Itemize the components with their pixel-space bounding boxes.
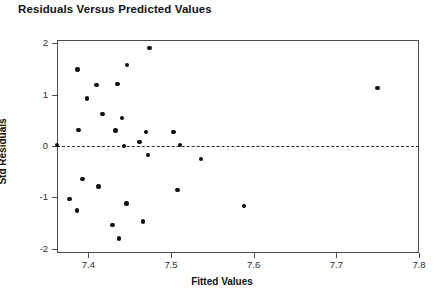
data-point: [137, 140, 141, 144]
data-point: [171, 130, 175, 134]
data-point: [144, 130, 148, 134]
x-axis-tick-label: 7.8: [412, 260, 425, 270]
data-point: [67, 197, 71, 201]
data-point: [141, 219, 145, 223]
data-point: [125, 63, 129, 67]
data-point: [110, 223, 114, 227]
data-point: [117, 236, 121, 240]
data-point: [100, 112, 104, 116]
x-axis-tick-label: 7.6: [247, 260, 260, 270]
y-axis-tick-label: 2: [43, 38, 48, 48]
data-point: [147, 46, 151, 50]
x-axis-tick-label: 7.4: [82, 260, 95, 270]
data-point: [146, 153, 150, 157]
x-axis-tick-label: 7.7: [330, 260, 343, 270]
y-axis-tick-label: -1: [40, 192, 48, 202]
data-point: [75, 67, 79, 71]
x-axis-label: Fitted Values: [0, 276, 444, 287]
y-axis-tick-label: -2: [40, 244, 48, 254]
x-axis-tick: [336, 253, 337, 258]
data-point: [75, 208, 79, 212]
data-point: [122, 144, 126, 148]
plot-area: [57, 40, 419, 253]
y-axis-tick-label: 0: [43, 141, 48, 151]
y-axis-tick-label: 1: [43, 90, 48, 100]
data-point: [375, 86, 379, 90]
y-axis-label: Std Residuals: [0, 118, 8, 184]
x-axis-tick: [88, 253, 89, 258]
data-point: [120, 116, 124, 120]
data-point: [115, 82, 119, 86]
x-axis-tick: [171, 253, 172, 258]
data-point: [94, 83, 98, 87]
data-point: [242, 204, 246, 208]
data-point: [124, 201, 128, 205]
data-point: [80, 177, 84, 181]
data-point: [96, 184, 100, 188]
data-point: [199, 157, 203, 161]
zero-residual-line: [57, 146, 419, 147]
data-point: [85, 96, 89, 100]
data-point: [175, 188, 179, 192]
residual-plot-figure: Residuals Versus Predicted Values Std Re…: [0, 0, 444, 296]
x-axis-tick: [254, 253, 255, 258]
x-axis-tick: [419, 253, 420, 258]
data-point: [113, 128, 117, 132]
chart-title: Residuals Versus Predicted Values: [18, 3, 212, 15]
x-axis-tick-label: 7.5: [164, 260, 177, 270]
data-point: [76, 128, 80, 132]
